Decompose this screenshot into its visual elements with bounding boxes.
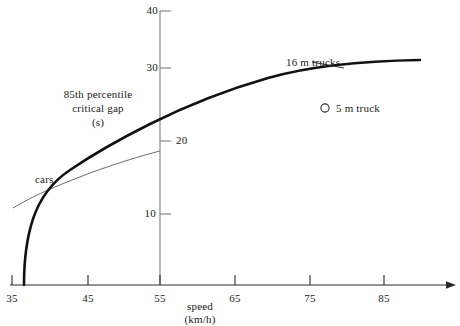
- y-tick-label-10: 10: [134, 207, 156, 219]
- chart-plot-area: [0, 0, 460, 326]
- legend-label-5m-truck: 5 m truck: [336, 102, 380, 114]
- chart-figure: 40 30 20 10 35 45 55 65 75 85 speed (km/…: [0, 0, 460, 326]
- y-axis-title-line3: (s): [46, 115, 150, 129]
- y-tick-label-20: 20: [176, 134, 198, 146]
- x-axis-arrowhead: [446, 281, 456, 289]
- x-axis-title-line2: (km/h): [160, 313, 240, 325]
- x-axis-title-line1: speed: [160, 300, 240, 312]
- y-axis-title-line1: 85th percentile: [46, 87, 150, 101]
- y-axis-title-line2: critical gap: [46, 101, 150, 115]
- annotation-label-cars: cars: [35, 173, 54, 185]
- legend-marker-open-circle: [321, 104, 329, 112]
- x-tick-label-75: 75: [298, 292, 322, 304]
- y-tick-label-40: 40: [136, 4, 158, 16]
- x-tick-label-85: 85: [372, 292, 396, 304]
- x-tick-label-35: 35: [0, 292, 24, 304]
- x-tick-label-45: 45: [76, 292, 100, 304]
- y-tick-label-30: 30: [136, 61, 158, 73]
- annotation-label-16m-trucks: 16 m trucks: [286, 56, 340, 68]
